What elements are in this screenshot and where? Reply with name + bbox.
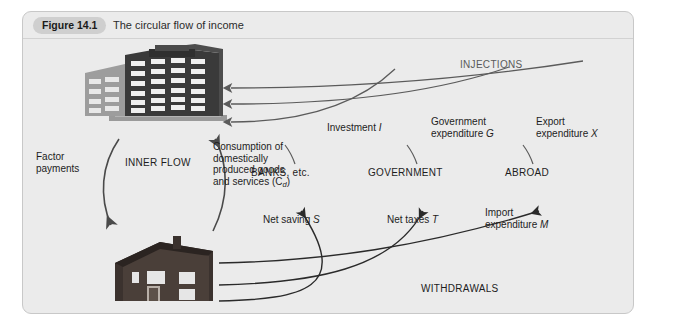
figure-header: Figure 14.1 The circular flow of income [23, 12, 633, 39]
factor-payments-arrow [103, 139, 119, 225]
figure-number-badge: Figure 14.1 [33, 17, 106, 34]
inner-flow-label: INNER FLOW [125, 157, 191, 169]
figure-panel: Figure 14.1 The circular flow of income [22, 11, 634, 314]
withdrawals-group-label: WITHDRAWALS [421, 283, 499, 295]
net-taxes-label: Net taxes T [387, 214, 438, 226]
injections-group-label: INJECTIONS [460, 59, 522, 71]
sector-banks-label: BANKS, etc. [251, 167, 310, 179]
net-saving-label: Net saving S [263, 214, 320, 226]
sector-abroad-label: ABROAD [505, 167, 549, 179]
export-tick [523, 145, 533, 164]
households-house-icon [115, 236, 213, 301]
firms-building-icon [85, 44, 227, 121]
consumption-text: Consumption of domestically produced goo… [213, 141, 285, 187]
government-tick [407, 145, 417, 164]
investment-injection-curve [231, 69, 395, 122]
government-expenditure-label: Governmentexpenditure G [431, 116, 494, 139]
government-injection-curve [231, 67, 509, 104]
export-injection-curve [231, 61, 583, 88]
investment-label: Investment I [327, 122, 381, 134]
sector-government-label: GOVERNMENT [368, 167, 443, 179]
diagram-canvas: Factor payments INNER FLOW Consumption o… [23, 39, 633, 314]
export-expenditure-label: Exportexpenditure X [536, 116, 598, 139]
consumption-label: Consumption of domestically produced goo… [213, 141, 290, 190]
figure-root: Figure 14.1 The circular flow of income [0, 0, 678, 333]
figure-title: The circular flow of income [113, 17, 244, 34]
factor-payments-label: Factor payments [36, 151, 79, 174]
import-expenditure-label: Importexpenditure M [485, 207, 548, 230]
